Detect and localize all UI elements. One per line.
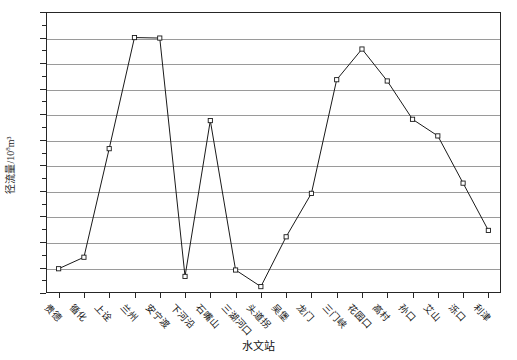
data-point-三湖河口 xyxy=(233,268,237,272)
x-tick-石嘴山 xyxy=(210,293,211,298)
x-tick-label-下河沿: 下河沿 xyxy=(168,300,199,331)
data-point-安宁渡 xyxy=(158,36,162,40)
x-tick-label-花园口: 花园口 xyxy=(345,300,376,331)
x-tick-下河沿 xyxy=(185,293,186,298)
x-tick-孙口 xyxy=(413,293,414,298)
y-tick-200 xyxy=(40,293,46,294)
x-tick-label-安宁渡: 安宁渡 xyxy=(143,300,174,331)
x-tick-利津 xyxy=(488,293,489,298)
data-point-高村 xyxy=(385,79,389,83)
y-axis-title-exponent: 8 xyxy=(4,147,12,151)
data-point-艾山 xyxy=(436,134,440,138)
x-tick-三门峡 xyxy=(337,293,338,298)
x-tick-头道拐 xyxy=(261,293,262,298)
data-point-利津 xyxy=(486,228,490,232)
x-tick-安宁渡 xyxy=(160,293,161,298)
y-axis-title-unit: m³ xyxy=(5,136,16,147)
x-tick-艾山 xyxy=(438,293,439,298)
x-tick-兰州 xyxy=(135,293,136,298)
runoff-line-chart: 径流量/108m³ 200210220230240250260270280290… xyxy=(0,0,517,360)
data-point-泺口 xyxy=(461,181,465,185)
data-point-下河沿 xyxy=(183,274,187,278)
x-tick-上诠 xyxy=(109,293,110,298)
data-point-三门峡 xyxy=(335,78,339,82)
data-point-兰州 xyxy=(132,35,136,39)
x-tick-泺口 xyxy=(463,293,464,298)
data-point-上诠 xyxy=(107,147,111,151)
y-axis-title-base: 径流量/10 xyxy=(5,151,16,194)
y-axis-title: 径流量/108m³ xyxy=(2,105,17,225)
data-point-吴堡 xyxy=(284,235,288,239)
series-polyline xyxy=(59,38,489,287)
x-tick-label-兰州: 兰州 xyxy=(117,300,141,324)
x-tick-三湖河口 xyxy=(236,293,237,298)
x-tick-label-三门峡: 三门峡 xyxy=(319,300,350,331)
x-axis-title: 水文站 xyxy=(0,337,517,353)
data-point-循化 xyxy=(82,255,86,259)
x-tick-循化 xyxy=(84,293,85,298)
data-series-layer xyxy=(46,12,501,293)
x-tick-贵德 xyxy=(59,293,60,298)
x-tick-label-上诠: 上诠 xyxy=(92,300,116,324)
x-tick-label-利津: 利津 xyxy=(471,300,495,324)
x-tick-label-石嘴山: 石嘴山 xyxy=(193,300,224,331)
data-point-贵德 xyxy=(57,267,61,271)
x-tick-label-孙口: 孙口 xyxy=(395,300,419,324)
x-tick-吴堡 xyxy=(286,293,287,298)
x-tick-高村 xyxy=(387,293,388,298)
x-tick-龙门 xyxy=(311,293,312,298)
data-point-头道拐 xyxy=(259,285,263,289)
x-tick-label-龙门: 龙门 xyxy=(294,300,318,324)
x-tick-label-泺口: 泺口 xyxy=(446,300,470,324)
x-tick-label-贵德: 贵德 xyxy=(41,300,65,324)
data-point-孙口 xyxy=(410,117,414,121)
data-point-龙门 xyxy=(309,191,313,195)
x-tick-label-艾山: 艾山 xyxy=(421,300,445,324)
data-point-石嘴山 xyxy=(208,118,212,122)
x-tick-label-循化: 循化 xyxy=(67,300,91,324)
data-point-花园口 xyxy=(360,47,364,51)
series-marker-group xyxy=(57,35,491,288)
x-tick-花园口 xyxy=(362,293,363,298)
